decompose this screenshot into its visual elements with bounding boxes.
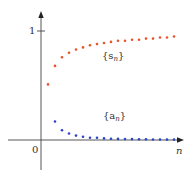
y-tick-label-1: 1	[29, 26, 35, 36]
data-point	[110, 41, 113, 44]
data-point	[54, 120, 57, 123]
data-point	[124, 40, 127, 43]
data-point	[166, 138, 169, 141]
data-point	[145, 37, 148, 40]
origin-label: 0	[32, 145, 38, 155]
series-s-label-close: }	[118, 50, 124, 61]
data-point	[75, 134, 78, 137]
data-point	[75, 48, 78, 51]
data-point	[68, 52, 71, 55]
data-point	[68, 132, 71, 135]
data-point	[138, 38, 141, 41]
x-axis-label: n	[176, 146, 182, 156]
series-a-label-close: }	[120, 110, 126, 121]
data-point	[173, 138, 176, 141]
data-point	[131, 38, 134, 41]
y-axis-arrow-icon	[38, 11, 43, 18]
data-point	[54, 65, 57, 68]
data-point	[117, 138, 120, 141]
x-axis-arrow-icon	[177, 137, 184, 142]
data-point	[152, 37, 155, 40]
data-point	[61, 56, 64, 59]
data-point	[131, 138, 134, 141]
series-s-label-text: {s	[102, 50, 114, 61]
data-point	[47, 83, 50, 86]
data-point	[145, 138, 148, 141]
data-point	[103, 42, 106, 45]
data-point	[110, 137, 113, 140]
data-point	[124, 138, 127, 141]
data-point	[61, 129, 64, 132]
data-point	[159, 36, 162, 39]
data-point	[96, 137, 99, 140]
series-a-label: {an}	[103, 111, 126, 123]
series-s-label: {sn}	[102, 51, 124, 63]
data-point	[82, 46, 85, 49]
series-a-label-text: {a	[103, 110, 115, 121]
data-point	[166, 36, 169, 39]
data-point	[117, 40, 120, 43]
series-a-points	[54, 120, 176, 141]
data-point	[138, 138, 141, 141]
data-point	[152, 138, 155, 141]
x-axis-label-text: n	[176, 145, 182, 156]
data-point	[159, 138, 162, 141]
data-point	[89, 137, 92, 140]
data-point	[82, 135, 85, 138]
data-point	[173, 35, 176, 38]
data-point	[96, 43, 99, 46]
data-point	[103, 137, 106, 140]
data-point	[89, 44, 92, 47]
